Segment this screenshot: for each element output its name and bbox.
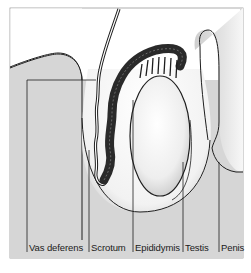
reproductive-anatomy-diagram bbox=[0, 0, 251, 273]
testis-shape bbox=[130, 76, 190, 196]
label-epididymis: Epididymis bbox=[135, 242, 180, 253]
label-scrotum: Scrotum bbox=[91, 242, 126, 253]
label-testis: Testis bbox=[185, 242, 209, 253]
label-penis: Penis bbox=[221, 242, 244, 253]
label-vas-deferens: Vas deferens bbox=[29, 242, 83, 253]
